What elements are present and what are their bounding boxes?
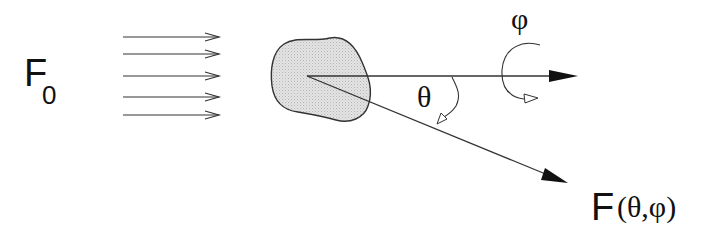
scattering-diagram: F 0 θ φ F (θ,φ) [0,0,713,234]
incident-rays [123,33,219,119]
theta-arc-arrow [437,77,459,124]
scattered-ray [307,76,568,183]
scattered-flux-label: F [591,188,614,226]
scatterer-blob [271,38,370,122]
incident-flux-subscript: 0 [42,82,56,108]
scattered-flux-args: (θ,φ) [617,192,676,222]
incident-ray-5 [123,111,219,119]
scattered-arrowhead [541,168,568,183]
azimuthal-angle-label: φ [511,4,528,34]
incident-ray-3 [123,72,219,80]
incident-ray-2 [123,50,219,58]
forward-arrowhead [549,70,578,82]
polar-angle-label: θ [417,82,431,112]
phi-rotation-arrow [502,43,540,103]
incident-ray-1 [123,33,219,41]
incident-ray-4 [123,93,219,101]
